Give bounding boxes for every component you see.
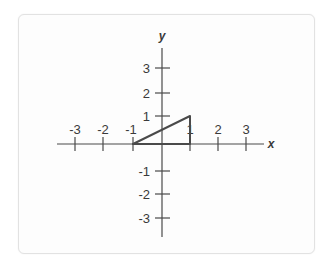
y-tick-label: -1: [138, 164, 150, 179]
x-tick-label: 3: [242, 122, 249, 137]
coordinate-plane: -3 -2 -1 1 2 3 3 2 1 -1 -2 -3 x y: [0, 0, 331, 268]
x-tick-label: -1: [125, 122, 137, 137]
x-tick-label: 2: [214, 122, 221, 137]
y-axis-label: y: [158, 29, 167, 43]
y-tick-label: -3: [138, 211, 150, 226]
y-tick-label: 3: [143, 61, 150, 76]
x-tick-label: -2: [97, 122, 109, 137]
x-axis-label: x: [267, 137, 276, 151]
x-tick-label: -3: [69, 122, 81, 137]
y-tick-label: 1: [143, 109, 150, 124]
y-tick-label: 2: [143, 86, 150, 101]
y-tick-label: -2: [138, 187, 150, 202]
